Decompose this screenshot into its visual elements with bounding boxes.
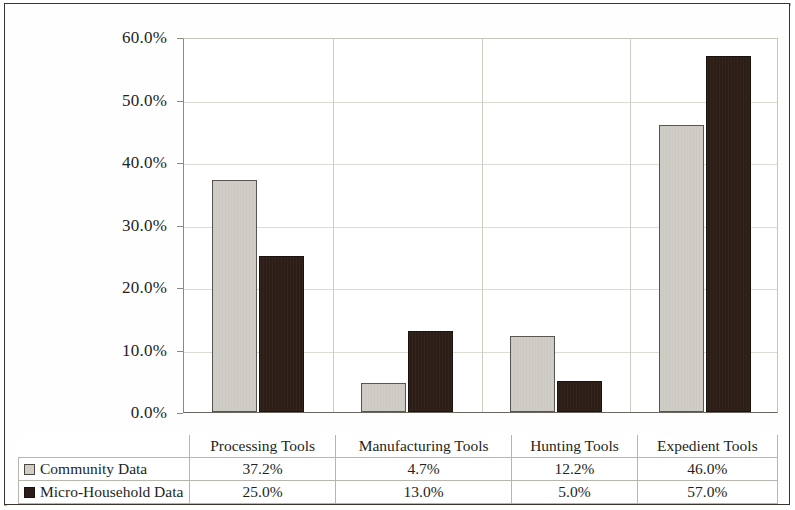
bar-series-a-1 bbox=[361, 383, 406, 412]
y-axis-tick bbox=[177, 413, 183, 414]
y-axis-tick-label: 60.0% bbox=[0, 28, 167, 48]
y-axis-tick-label: 20.0% bbox=[0, 278, 167, 298]
y-axis-tick-label: 0.0% bbox=[0, 403, 167, 423]
category-separator bbox=[482, 39, 483, 412]
y-axis: 0.0%10.0%20.0%30.0%40.0%50.0%60.0% bbox=[0, 0, 175, 510]
y-axis-tick-label: 50.0% bbox=[0, 91, 167, 111]
bar-series-b-3 bbox=[706, 56, 751, 412]
table-cell-r0-c2: 12.2% bbox=[512, 458, 637, 481]
table-cell-r0-c0: 37.2% bbox=[190, 458, 336, 481]
table-cell-r1-c3: 57.0% bbox=[637, 481, 777, 504]
table-row: Micro-Household Data25.0%13.0%5.0%57.0% bbox=[19, 481, 778, 504]
legend-swatch-icon bbox=[24, 464, 35, 475]
table-header: Processing ToolsManufacturing ToolsHunti… bbox=[19, 435, 778, 458]
table-cell-r0-c1: 4.7% bbox=[335, 458, 511, 481]
category-separator bbox=[333, 39, 334, 412]
y-axis-tick-label: 10.0% bbox=[0, 341, 167, 361]
bar-series-b-0 bbox=[259, 256, 304, 412]
y-axis-tick-label: 30.0% bbox=[0, 216, 167, 236]
legend-label: Community Data bbox=[40, 460, 147, 477]
y-axis-tick-label: 40.0% bbox=[0, 153, 167, 173]
table-cell-r0-c3: 46.0% bbox=[637, 458, 777, 481]
table-column-header-2: Hunting Tools bbox=[512, 435, 637, 458]
table-column-header-0: Processing Tools bbox=[190, 435, 336, 458]
data-table: Processing ToolsManufacturing ToolsHunti… bbox=[18, 435, 778, 504]
bar-series-a-3 bbox=[659, 125, 704, 413]
category-separator bbox=[630, 39, 631, 412]
bar-series-b-1 bbox=[408, 331, 453, 412]
bar-series-a-2 bbox=[510, 336, 555, 412]
table-header-row: Processing ToolsManufacturing ToolsHunti… bbox=[19, 435, 778, 458]
table-column-header-1: Manufacturing Tools bbox=[335, 435, 511, 458]
table-column-header-3: Expedient Tools bbox=[637, 435, 777, 458]
bar-series-a-0 bbox=[212, 180, 257, 413]
legend-label: Micro-Household Data bbox=[40, 483, 183, 500]
figure-root: 0.0%10.0%20.0%30.0%40.0%50.0%60.0% Proce… bbox=[0, 0, 795, 510]
table-cell-r1-c1: 13.0% bbox=[335, 481, 511, 504]
gridline bbox=[184, 102, 777, 103]
table-corner-cell bbox=[19, 435, 190, 458]
table-cell-r1-c0: 25.0% bbox=[190, 481, 336, 504]
bar-series-b-2 bbox=[557, 381, 602, 412]
plot-area bbox=[183, 38, 778, 413]
legend-swatch-icon bbox=[24, 487, 35, 498]
table-body: Community Data37.2%4.7%12.2%46.0%Micro-H… bbox=[19, 458, 778, 504]
legend-entry-0: Community Data bbox=[19, 458, 190, 481]
table-row: Community Data37.2%4.7%12.2%46.0% bbox=[19, 458, 778, 481]
table-cell-r1-c2: 5.0% bbox=[512, 481, 637, 504]
legend-entry-1: Micro-Household Data bbox=[19, 481, 190, 504]
